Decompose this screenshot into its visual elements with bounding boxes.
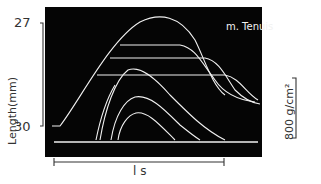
trace-length-main xyxy=(52,17,225,126)
force-scale-label: 800 g/cm² xyxy=(283,84,296,140)
trace-force-a xyxy=(100,69,225,140)
time-scale-label: l s xyxy=(133,164,146,178)
y-axis-bracket xyxy=(40,23,43,126)
chart-title: m. Tenuis xyxy=(226,21,273,32)
y-axis-label: Length(mm) xyxy=(6,65,20,145)
trace-plateau-1 xyxy=(120,45,255,102)
trace-force-b xyxy=(111,97,200,140)
trace-force-c xyxy=(118,113,175,140)
ytick-27: 27 xyxy=(14,15,31,30)
